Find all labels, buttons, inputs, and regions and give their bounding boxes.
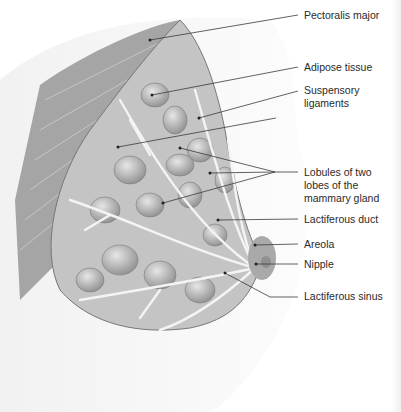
label-areola: Areola <box>304 238 334 251</box>
label-line: Suspensory <box>304 84 359 97</box>
label-line: Lobules of two <box>304 166 379 179</box>
areola-shape <box>248 236 276 280</box>
label-line: lobes of the <box>304 179 379 192</box>
label-line: ligaments <box>304 97 359 110</box>
label-nipple: Nipple <box>304 258 334 271</box>
nipple-shape <box>261 256 271 268</box>
label-lactiferous-sinus: Lactiferous sinus <box>304 290 383 303</box>
label-lactiferous-duct: Lactiferous duct <box>304 213 378 226</box>
label-pectoralis-major: Pectoralis major <box>304 9 379 22</box>
label-lobules: Lobules of two lobes of the mammary glan… <box>304 166 379 205</box>
label-adipose-tissue: Adipose tissue <box>304 61 372 74</box>
label-suspensory-ligaments: Suspensory ligaments <box>304 84 359 110</box>
label-line: mammary gland <box>304 192 379 205</box>
